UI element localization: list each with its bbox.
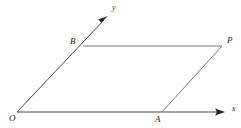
label-vertex-a: A [155, 115, 161, 124]
label-axis-y: y [112, 4, 116, 12]
diagram-canvas [0, 0, 241, 128]
label-vertex-b: B [70, 37, 76, 46]
label-axis-x: x [232, 105, 236, 113]
label-vertex-p: P [227, 36, 233, 45]
geometry-diagram: O A B P x y [0, 0, 241, 128]
y-axis-line [17, 20, 104, 112]
y-axis-arrowhead [98, 16, 108, 25]
label-origin: O [9, 114, 16, 123]
segment-ap [162, 46, 222, 112]
